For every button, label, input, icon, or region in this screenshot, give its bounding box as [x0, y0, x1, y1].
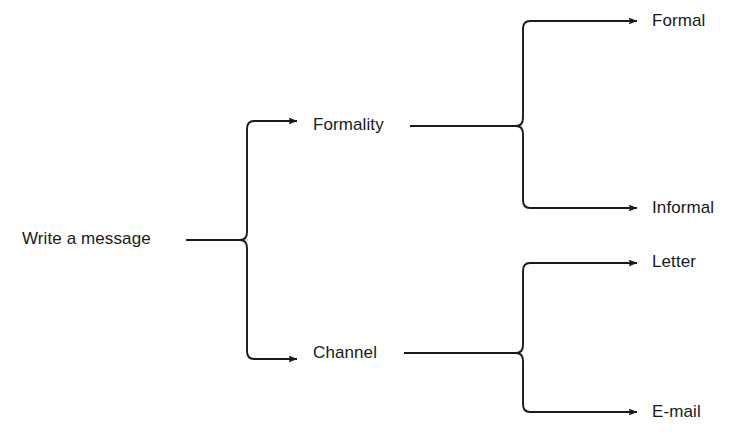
node-leaf-informal: Informal [652, 198, 714, 218]
node-branch-channel: Channel [313, 343, 377, 363]
node-leaf-letter: Letter [652, 252, 696, 272]
node-branch-formality: Formality [313, 115, 384, 135]
edge-root-to-formality [240, 121, 297, 240]
edge-formality-to-informal [516, 126, 637, 208]
node-root-write-a-message: Write a message [22, 229, 151, 249]
edge-channel-to-email [516, 353, 637, 412]
node-leaf-email: E-mail [652, 402, 701, 422]
edge-root-to-channel [240, 240, 297, 359]
tree-diagram: Write a message Formality Channel Formal… [0, 0, 745, 448]
edge-channel-to-letter [516, 263, 637, 353]
node-leaf-formal: Formal [652, 11, 706, 31]
diagram-connectors [0, 0, 745, 448]
edge-formality-to-formal [516, 21, 637, 126]
